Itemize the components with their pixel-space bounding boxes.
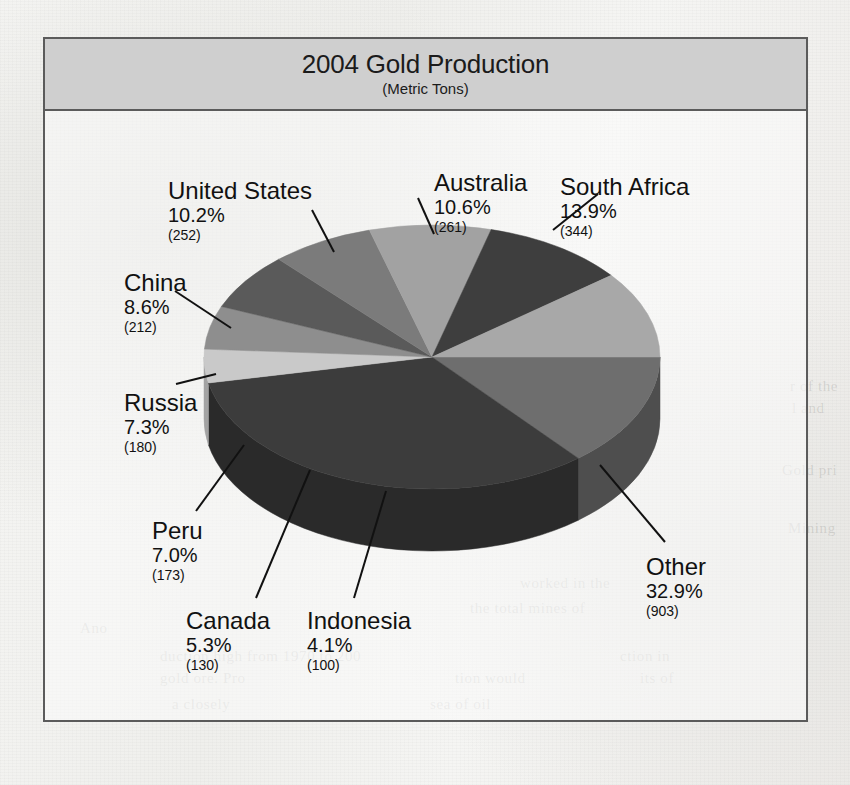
pie-label-percent-indonesia: 4.1%: [307, 635, 411, 657]
pie-label-south-africa: South Africa13.9%(344): [560, 174, 689, 239]
pie-label-name-australia: Australia: [434, 170, 527, 196]
pie-label-name-united-states: United States: [168, 178, 312, 204]
pie-label-canada: Canada5.3%(130): [186, 608, 270, 673]
pie-label-value-australia: (261): [434, 220, 527, 235]
pie-label-name-canada: Canada: [186, 608, 270, 634]
pie-label-value-russia: (180): [124, 440, 197, 455]
pie-label-name-south-africa: South Africa: [560, 174, 689, 200]
pie-label-percent-australia: 10.6%: [434, 197, 527, 219]
pie-label-united-states: United States10.2%(252): [168, 178, 312, 243]
pie-label-australia: Australia10.6%(261): [434, 170, 527, 235]
pie-label-name-china: China: [124, 270, 187, 296]
pie-label-indonesia: Indonesia4.1%(100): [307, 608, 411, 673]
pie-label-peru: Peru7.0%(173): [152, 518, 203, 583]
pie-label-name-russia: Russia: [124, 390, 197, 416]
pie-label-percent-south-africa: 13.9%: [560, 201, 689, 223]
pie-label-percent-united-states: 10.2%: [168, 205, 312, 227]
figure-frame: 2004 Gold Production (Metric Tons) South…: [43, 37, 808, 722]
chart-title: 2004 Gold Production: [302, 51, 550, 78]
pie-label-percent-china: 8.6%: [124, 297, 187, 319]
pie-label-name-indonesia: Indonesia: [307, 608, 411, 634]
chart-subtitle: (Metric Tons): [382, 81, 468, 97]
pie-label-value-peru: (173): [152, 568, 203, 583]
pie-label-value-other: (903): [646, 604, 706, 619]
pie-label-other: Other32.9%(903): [646, 554, 706, 619]
pie-label-name-peru: Peru: [152, 518, 203, 544]
pie-label-percent-canada: 5.3%: [186, 635, 270, 657]
pie-label-value-south-africa: (344): [560, 224, 689, 239]
pie-label-percent-other: 32.9%: [646, 581, 706, 603]
pie-label-value-indonesia: (100): [307, 658, 411, 673]
pie-label-russia: Russia7.3%(180): [124, 390, 197, 455]
pie-label-value-china: (212): [124, 320, 187, 335]
pie-label-percent-peru: 7.0%: [152, 545, 203, 567]
pie-label-china: China8.6%(212): [124, 270, 187, 335]
pie-label-name-other: Other: [646, 554, 706, 580]
chart-title-band: 2004 Gold Production (Metric Tons): [45, 39, 806, 111]
pie-label-value-united-states: (252): [168, 228, 312, 243]
pie-chart-plot-area: South Africa13.9%(344)Other32.9%(903)Ind…: [45, 111, 806, 720]
pie-label-percent-russia: 7.3%: [124, 417, 197, 439]
pie-label-value-canada: (130): [186, 658, 270, 673]
